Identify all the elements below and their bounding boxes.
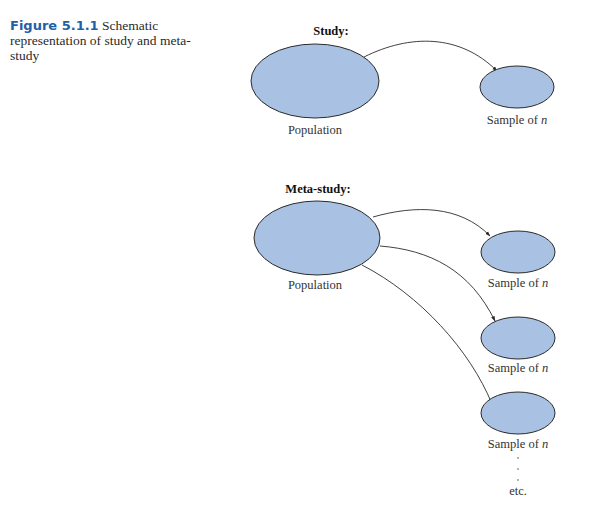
study-sample-ellipse [480, 66, 554, 108]
meta-population-ellipse [254, 201, 380, 275]
meta-sample-ellipse-1 [481, 231, 555, 273]
meta-sample-label-2: Sample of n [488, 361, 548, 375]
meta-arrow-1 [373, 210, 490, 236]
meta-population-label: Population [288, 278, 343, 292]
continuation-label: etc. [509, 484, 527, 498]
study-arrow [364, 41, 497, 71]
study-population-ellipse [251, 44, 379, 118]
meta-sample-ellipse-2 [481, 317, 555, 359]
meta-sample-label-3: Sample of n [488, 437, 548, 451]
meta-arrow-3 [362, 265, 492, 404]
meta-study-title: Meta-study: [285, 182, 350, 196]
meta-sample-label-1: Sample of n [488, 276, 548, 290]
study-sample-label: Sample of n [487, 113, 547, 127]
study-population-label: Population [288, 123, 343, 137]
study-title: Study: [313, 24, 348, 38]
meta-sample-ellipse-3 [481, 392, 555, 434]
meta-arrow-2 [380, 246, 495, 321]
study-diagram: Study: Population Sample of n Meta-study… [0, 0, 596, 516]
continuation-dots [517, 457, 519, 481]
